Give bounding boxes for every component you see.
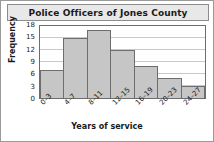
chart-figure: Police Officers of Jones County Frequenc… — [0, 0, 214, 142]
bar — [40, 70, 64, 98]
bar-series — [40, 26, 205, 98]
y-axis-title: Frequency — [8, 13, 17, 67]
x-axis-ticks: 0–34–78–1112–1516–1920–2324–27 — [39, 100, 206, 122]
y-tick-label: 6 — [31, 70, 35, 78]
chart-title: Police Officers of Jones County — [28, 8, 187, 18]
y-tick-label: 0 — [31, 95, 35, 103]
y-tick-label: 12 — [26, 46, 35, 54]
y-tick-label: 15 — [26, 33, 35, 41]
y-tick-label: 3 — [31, 83, 35, 91]
bar — [63, 38, 87, 98]
chart-title-banner: Police Officers of Jones County — [7, 4, 209, 21]
bar — [87, 30, 111, 98]
x-axis-title: Years of service — [1, 122, 213, 131]
y-tick-label: 9 — [31, 58, 35, 66]
y-axis-ticks: 0369121518 — [17, 25, 37, 99]
y-tick-label: 18 — [26, 21, 35, 29]
